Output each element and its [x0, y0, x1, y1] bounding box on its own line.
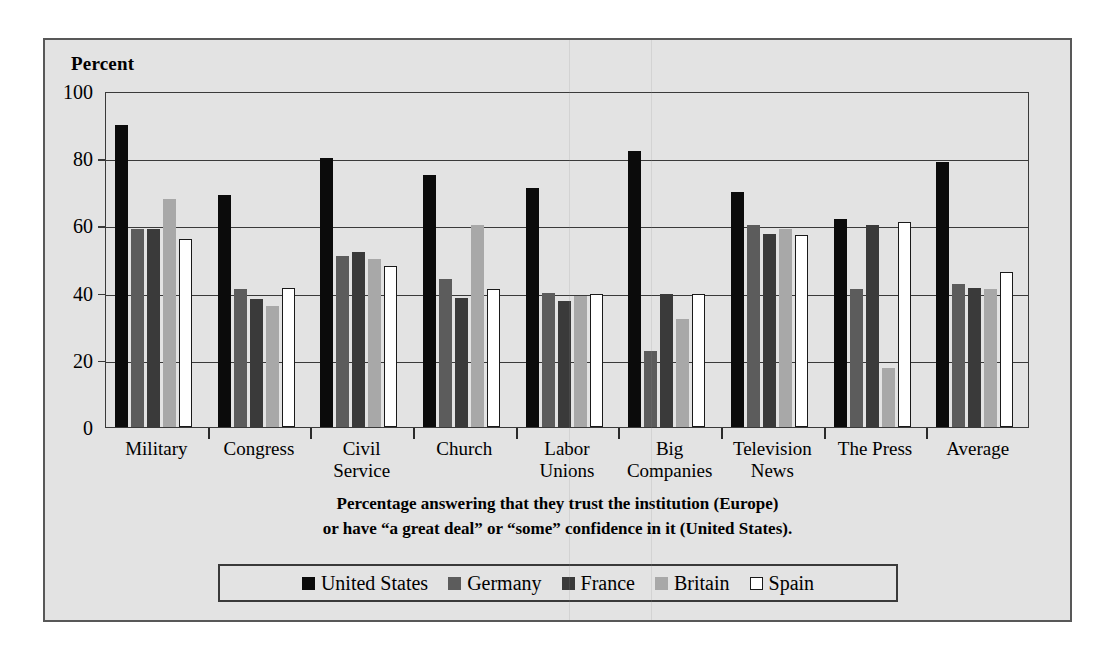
bar [218, 195, 231, 427]
category-label: Average [926, 438, 1029, 460]
bar-group [320, 93, 397, 427]
bar [423, 175, 436, 427]
legend-label: France [581, 572, 635, 595]
bar-group [936, 93, 1013, 427]
bar [455, 298, 468, 427]
bar [439, 279, 452, 427]
y-tick-label: 20 [73, 349, 93, 372]
legend-item: United States [302, 572, 428, 595]
legend: United StatesGermanyFranceBritainSpain [218, 564, 898, 602]
category-label: Church [413, 438, 516, 460]
bar [731, 192, 744, 427]
legend-item: Britain [655, 572, 730, 595]
legend-item: Spain [750, 572, 815, 595]
bar [936, 162, 949, 427]
y-axis-title: Percent [71, 53, 134, 75]
bar-group [834, 93, 911, 427]
y-axis-ticks: 020406080100 [45, 92, 105, 428]
bar [352, 252, 365, 427]
bar [266, 306, 279, 427]
category-label: Civil Service [310, 438, 413, 482]
bar [471, 225, 484, 427]
y-tick-label: 80 [73, 148, 93, 171]
bar [179, 239, 192, 427]
category-label: Congress [208, 438, 311, 460]
legend-label: Germany [467, 572, 541, 595]
legend-label: Spain [769, 572, 815, 595]
legend-label: Britain [674, 572, 730, 595]
bar [526, 188, 539, 427]
plot-area [105, 92, 1029, 428]
bar [968, 288, 981, 427]
bar-group [628, 93, 705, 427]
bar [131, 229, 144, 427]
bar [336, 256, 349, 427]
bar [882, 368, 895, 427]
y-tick-mark [98, 226, 105, 228]
caption-line-1: Percentage answering that they trust the… [45, 492, 1070, 517]
bar [115, 125, 128, 427]
legend-swatch-icon [562, 577, 575, 590]
bar [984, 289, 997, 427]
bar [574, 296, 587, 427]
figure-caption: Percentage answering that they trust the… [45, 492, 1070, 541]
legend-swatch-icon [448, 577, 461, 590]
bar [952, 284, 965, 427]
category-label: The Press [824, 438, 927, 460]
bar [779, 229, 792, 427]
bar [234, 289, 247, 427]
bar [628, 151, 641, 427]
bar [368, 259, 381, 427]
bar [747, 225, 760, 427]
legend-label: United States [321, 572, 428, 595]
bar [384, 266, 397, 427]
bar [558, 301, 571, 427]
bar [487, 289, 500, 427]
bar [282, 288, 295, 427]
y-tick-label: 0 [83, 417, 93, 440]
bar-group [423, 93, 500, 427]
bar [898, 222, 911, 427]
legend-swatch-icon [750, 577, 763, 590]
category-label: Television News [721, 438, 824, 482]
figure-frame: Percent 020406080100 MilitaryCongressCiv… [43, 38, 1072, 622]
caption-line-2: or have “a great deal” or “some” confide… [45, 517, 1070, 542]
bar [676, 319, 689, 427]
category-label: Big Companies [618, 438, 721, 482]
bar [147, 229, 160, 427]
bar [320, 158, 333, 427]
bar [590, 294, 603, 427]
bar [250, 299, 263, 427]
y-tick-label: 100 [63, 81, 93, 104]
bar [542, 293, 555, 427]
y-tick-mark [98, 361, 105, 363]
category-label: Labor Unions [516, 438, 619, 482]
bar-group [526, 93, 603, 427]
bar-group [115, 93, 192, 427]
bar [866, 225, 879, 427]
legend-swatch-icon [655, 577, 668, 590]
y-tick-mark [98, 294, 105, 296]
y-tick-label: 60 [73, 215, 93, 238]
bar [644, 351, 657, 427]
category-label: Military [105, 438, 208, 460]
bar [834, 219, 847, 427]
bar [795, 235, 808, 427]
legend-item: France [562, 572, 635, 595]
y-tick-label: 40 [73, 282, 93, 305]
bar [763, 234, 776, 427]
legend-swatch-icon [302, 577, 315, 590]
bar [163, 199, 176, 427]
bar-group [218, 93, 295, 427]
y-tick-mark [98, 159, 105, 161]
bar [850, 289, 863, 427]
bar [1000, 272, 1013, 427]
bar [660, 294, 673, 427]
bar [692, 294, 705, 427]
bar-group [731, 93, 808, 427]
legend-item: Germany [448, 572, 541, 595]
